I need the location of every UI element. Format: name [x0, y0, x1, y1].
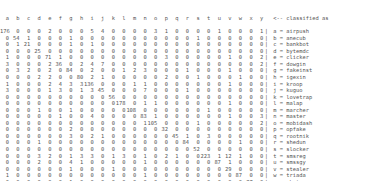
- matrix-cell: 0: [157, 179, 168, 181]
- matrix-cell: 0: [41, 179, 52, 181]
- matrix-cell: 0: [168, 179, 179, 181]
- matrix-cell: 0: [30, 179, 41, 181]
- column-header: i: [83, 15, 94, 22]
- matrix-cell: 0: [136, 179, 147, 181]
- column-header: r: [179, 15, 190, 22]
- column-header: y: [253, 15, 264, 22]
- matrix-cell: 0: [104, 179, 115, 181]
- matrix-header-row: abcdefghijklmnopqrstuvwxy<-- classified …: [0, 15, 328, 22]
- column-header: a: [0, 15, 9, 22]
- column-header: j: [94, 15, 105, 22]
- column-header: x: [242, 15, 253, 22]
- column-header: e: [41, 15, 52, 22]
- matrix-cell: 0: [0, 179, 9, 181]
- column-header: q: [168, 15, 179, 22]
- column-header: v: [221, 15, 232, 22]
- matrix-cell: 0: [253, 179, 264, 181]
- matrix-cell: 0: [20, 179, 31, 181]
- column-header: t: [200, 15, 211, 22]
- matrix-cell: 27: [242, 179, 253, 181]
- column-header: l: [115, 15, 126, 22]
- confusion-matrix: abcdefghijklmnopqrstuvwxy<-- classified …: [0, 2, 328, 181]
- matrix-cell: 1: [62, 179, 73, 181]
- matrix-cell: 0: [210, 179, 221, 181]
- matrix-cell: 0: [94, 179, 105, 181]
- column-header: s: [189, 15, 200, 22]
- column-header: p: [157, 15, 168, 22]
- matrix-cell: 0: [147, 179, 158, 181]
- column-header: u: [210, 15, 221, 22]
- matrix-cell: 0: [179, 179, 190, 181]
- column-header: w: [231, 15, 242, 22]
- column-header: d: [30, 15, 41, 22]
- column-header: m: [126, 15, 137, 22]
- classified-as-label: <-- classified as: [269, 15, 328, 22]
- matrix-cell: 0: [221, 179, 232, 181]
- matrix-cell: 0: [51, 179, 62, 181]
- column-header: f: [51, 15, 62, 22]
- matrix-cell: 0: [73, 179, 84, 181]
- row-class-label: x = zbot: [269, 179, 299, 181]
- column-header: g: [62, 15, 73, 22]
- matrix-cell: 0: [200, 179, 211, 181]
- matrix-cell: 0: [115, 179, 126, 181]
- matrix-cell: 0: [126, 179, 137, 181]
- column-header: n: [136, 15, 147, 22]
- column-header: o: [147, 15, 158, 22]
- matrix-cell: 0: [231, 179, 242, 181]
- matrix-cell: 0: [189, 179, 200, 181]
- matrix-cell: 0: [83, 179, 94, 181]
- matrix-cell: 0: [9, 179, 20, 181]
- column-header: c: [20, 15, 31, 22]
- column-header: k: [104, 15, 115, 22]
- matrix-row: 00000010000000000000000270|x = zbot: [0, 179, 328, 181]
- column-header: h: [73, 15, 84, 22]
- column-header: b: [9, 15, 20, 22]
